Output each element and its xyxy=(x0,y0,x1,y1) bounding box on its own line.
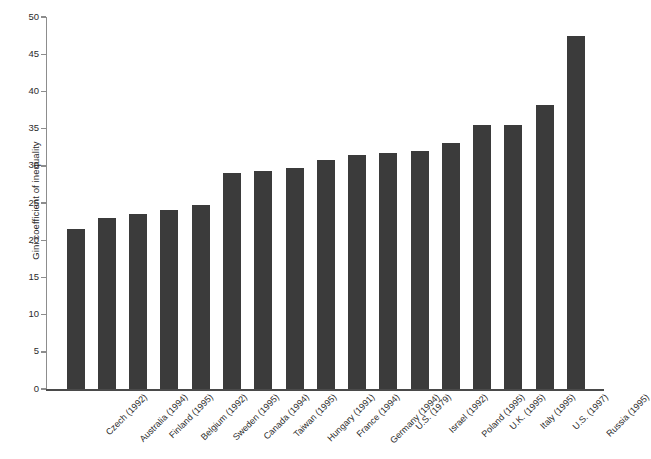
bars-layer xyxy=(46,17,604,389)
x-axis-label: Russia (1995) xyxy=(604,392,651,439)
y-tick-label: 20 xyxy=(28,234,39,245)
bar[interactable] xyxy=(442,143,460,389)
bar[interactable] xyxy=(317,160,335,389)
bar[interactable] xyxy=(411,151,429,389)
bar[interactable] xyxy=(379,153,397,389)
plot-area: 50454035302520151050 xyxy=(46,17,604,389)
y-tick-label: 50 xyxy=(28,11,39,22)
y-tick-label: 5 xyxy=(34,345,39,356)
x-axis-labels: Czech (1992)Australia (1994)Finland (199… xyxy=(46,392,604,459)
bar[interactable] xyxy=(98,218,116,389)
bar[interactable] xyxy=(223,173,241,390)
bar[interactable] xyxy=(286,168,304,389)
bar[interactable] xyxy=(473,125,491,389)
y-tick-label: 15 xyxy=(28,271,39,282)
y-tick-label: 25 xyxy=(28,197,39,208)
x-axis-label: Czech (1992) xyxy=(104,392,149,437)
bar[interactable] xyxy=(67,229,85,389)
bar[interactable] xyxy=(536,105,554,389)
bar[interactable] xyxy=(348,155,366,389)
y-tick-label: 45 xyxy=(28,48,39,59)
y-tick-label: 40 xyxy=(28,85,39,96)
bar[interactable] xyxy=(192,205,210,390)
y-tick-label: 35 xyxy=(28,122,39,133)
bar[interactable] xyxy=(567,36,585,389)
bar[interactable] xyxy=(160,210,178,389)
bar[interactable] xyxy=(504,125,522,389)
y-tick-label: 10 xyxy=(28,308,39,319)
y-tick-label: 30 xyxy=(28,159,39,170)
bar[interactable] xyxy=(129,214,147,389)
bar[interactable] xyxy=(254,171,272,389)
y-tick-label: 0 xyxy=(34,383,39,394)
